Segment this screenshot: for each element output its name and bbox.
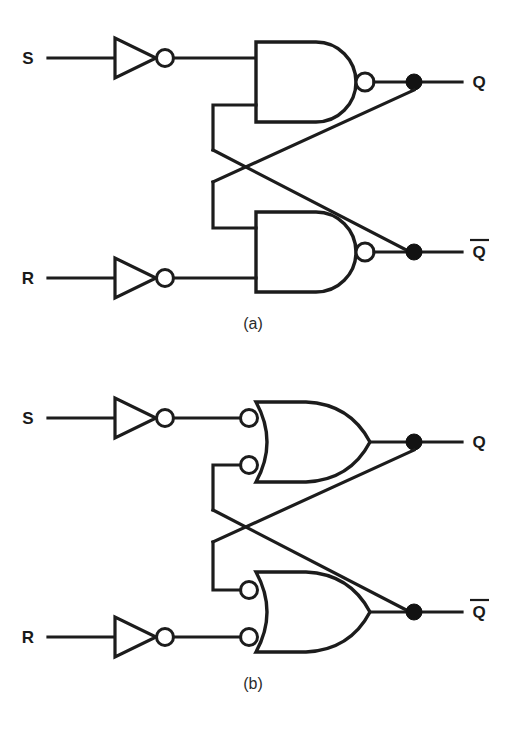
or-top-input-bubble-2-b: [241, 457, 258, 474]
wire-fb-top-left-a: [213, 105, 256, 150]
or-bottom-input-bubble-1-b: [241, 582, 258, 599]
wire-fb-bottom-left-b: [213, 542, 241, 590]
figure-root: S R Q Q (a): [0, 0, 518, 732]
caption-panel-a: (a): [243, 315, 263, 332]
inverter-s-triangle-a: [115, 38, 156, 78]
inverter-s-bubble-b: [157, 410, 174, 427]
inverter-r-triangle-b: [115, 617, 156, 657]
or-bottom-input-bubble-2-b: [241, 629, 258, 646]
inverter-s-bubble-a: [157, 50, 174, 67]
inverter-s-triangle-b: [115, 398, 156, 438]
nand-gate-top-a: [256, 42, 356, 122]
label-q-a: Q: [472, 73, 485, 92]
nand-bottom-output-bubble-a: [356, 243, 374, 261]
panel-a: S R Q Q (a): [22, 38, 489, 332]
inverter-r-bubble-a: [157, 270, 174, 287]
or-top-input-bubble-1-b: [241, 410, 258, 427]
nor-gate-top-b: [256, 402, 370, 482]
inverter-r-triangle-a: [115, 258, 156, 298]
circuit-diagram: S R Q Q (a): [0, 0, 518, 732]
label-qbar-a: Q: [472, 243, 485, 262]
junction-dot-q-a: [406, 74, 422, 90]
wire-fb-top-left-b: [213, 465, 241, 510]
junction-dot-qbar-a: [406, 244, 422, 260]
junction-dot-q-b: [406, 434, 422, 450]
caption-panel-b: (b): [243, 675, 263, 692]
label-q-b: Q: [472, 433, 485, 452]
junction-dot-qbar-b: [406, 604, 422, 620]
nand-top-output-bubble-a: [356, 73, 374, 91]
wire-fb-bottom-left-a: [213, 182, 256, 228]
label-s-b: S: [22, 409, 33, 428]
label-s-a: S: [22, 49, 33, 68]
nand-gate-bottom-a: [256, 212, 356, 292]
label-r-b: R: [22, 628, 34, 647]
label-qbar-b: Q: [472, 603, 485, 622]
panel-b: S R Q Q (b): [22, 398, 489, 692]
label-r-a: R: [22, 269, 34, 288]
inverter-r-bubble-b: [157, 629, 174, 646]
